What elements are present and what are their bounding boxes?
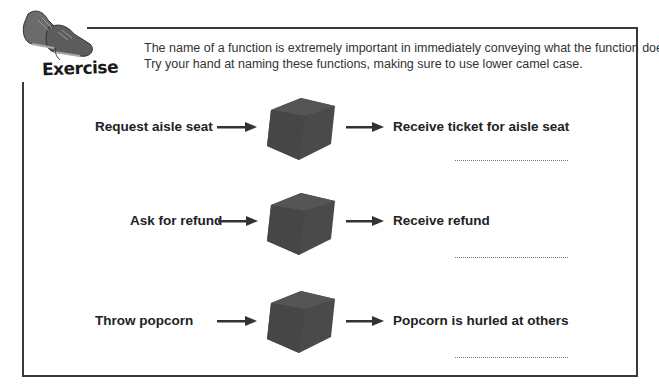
function-row-2: Ask for refund Receive refund (0, 186, 659, 266)
function-name-answer-field[interactable] (455, 257, 568, 258)
black-box-cube-icon (265, 189, 337, 257)
sneakers-icon (18, 4, 98, 62)
function-output-label: Popcorn is hurled at others (393, 313, 569, 328)
black-box-cube-icon (265, 287, 337, 355)
instructions-line-1: The name of a function is extremely impo… (144, 40, 634, 56)
frame-top-border (87, 27, 638, 29)
exercise-badge-label: Exercise (42, 57, 119, 80)
function-name-answer-field[interactable] (455, 357, 568, 358)
arrow-right-icon (217, 316, 257, 326)
function-name-answer-field[interactable] (455, 160, 568, 161)
arrow-right-icon (346, 316, 384, 326)
arrow-right-icon (346, 122, 384, 132)
arrow-right-icon (217, 122, 257, 132)
function-input-label: Throw popcorn (95, 313, 193, 328)
arrow-right-icon (346, 216, 384, 226)
function-output-label: Receive refund (393, 213, 490, 228)
function-output-label: Receive ticket for aisle seat (393, 119, 569, 134)
function-input-label: Request aisle seat (95, 119, 213, 134)
function-row-1: Request aisle seat Receive ticket for ai… (0, 90, 659, 170)
instructions: The name of a function is extremely impo… (144, 40, 634, 72)
instructions-line-2: Try your hand at naming these functions,… (144, 56, 634, 72)
frame-bottom-border (22, 375, 638, 377)
arrow-right-icon (218, 216, 258, 226)
function-input-label: Ask for refund (130, 213, 222, 228)
black-box-cube-icon (265, 94, 337, 162)
function-row-3: Throw popcorn Popcorn is hurled at other… (0, 284, 659, 364)
